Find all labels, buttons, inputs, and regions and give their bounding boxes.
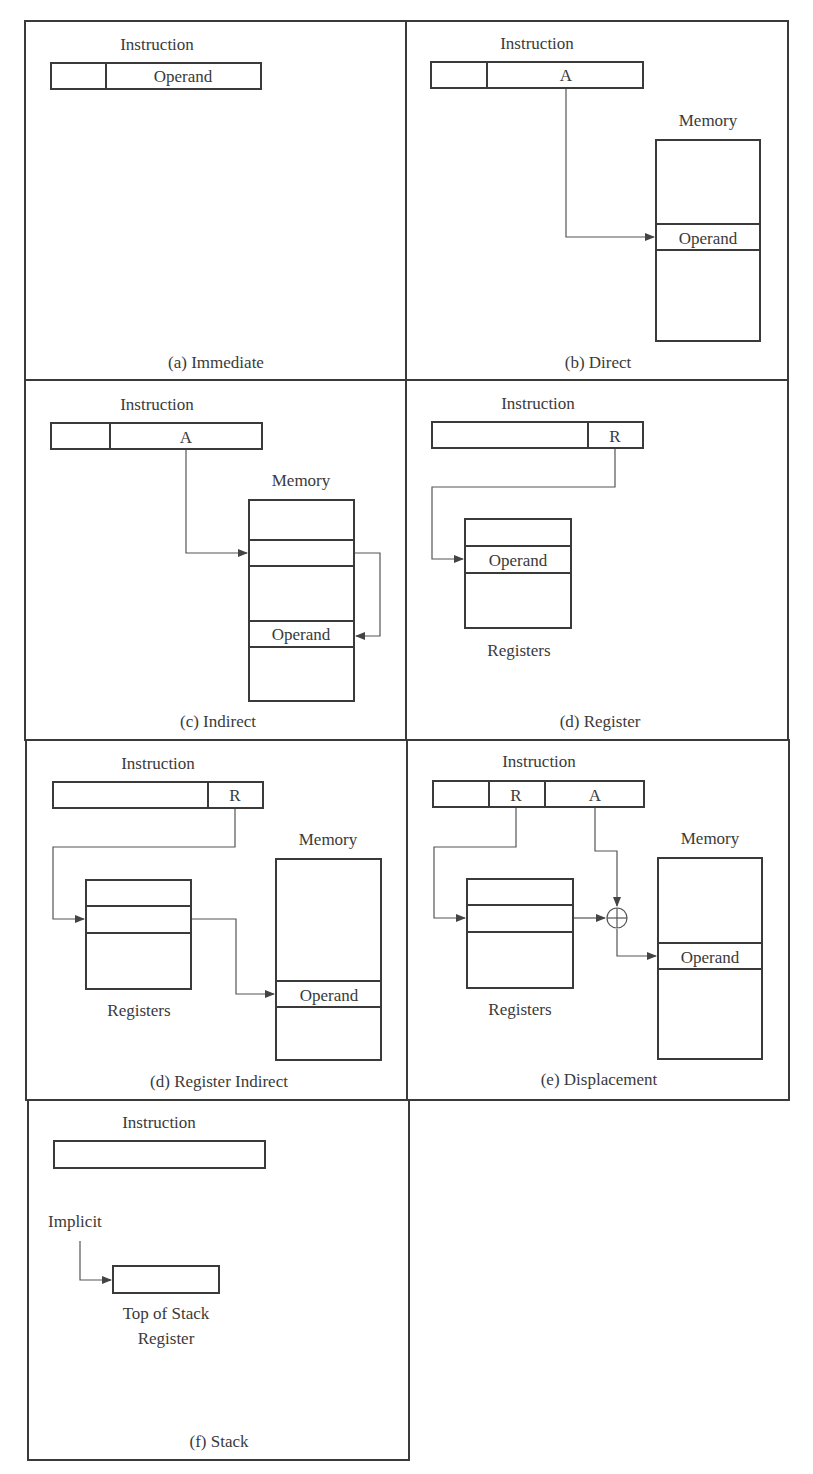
address-field: A: [589, 786, 602, 805]
memory-operand-cell: Operand: [681, 948, 740, 967]
memory-block: [276, 859, 381, 1060]
memory-operand-cell: Operand: [679, 229, 738, 248]
operand-field: Operand: [154, 67, 213, 86]
panel-displacement: Instruction R A Registers Memory Operand…: [433, 752, 762, 1089]
memory-label: Memory: [299, 830, 358, 849]
memory-label: Memory: [681, 829, 740, 848]
memory-operand-cell: Operand: [272, 625, 331, 644]
memory-block: [249, 500, 354, 701]
instruction-box: [431, 62, 643, 88]
addressing-modes-diagram: Instruction Operand (a) Immediate Instru…: [0, 0, 813, 1474]
arrow-icon: [80, 1241, 111, 1280]
panel-caption: (b) Direct: [565, 353, 632, 372]
instruction-label: Instruction: [502, 752, 576, 771]
panel-caption: (e) Displacement: [541, 1070, 658, 1089]
panel-caption: (d) Register: [560, 712, 641, 731]
instruction-label: Instruction: [501, 394, 575, 413]
address-field: A: [560, 66, 573, 85]
registers-block: [86, 880, 191, 989]
registers-label: Registers: [487, 641, 550, 660]
address-field: A: [180, 428, 193, 447]
panel-stack: Instruction Implicit Top of Stack Regist…: [48, 1113, 265, 1451]
instruction-box: [51, 423, 262, 449]
register-field: R: [229, 786, 241, 805]
instruction-label: Instruction: [120, 35, 194, 54]
arrow-icon: [566, 89, 654, 237]
panel-direct: Instruction A Memory Operand (b) Direct: [431, 34, 760, 372]
arrow-icon: [617, 929, 656, 956]
register-field: R: [609, 427, 621, 446]
instruction-box: [54, 1141, 265, 1168]
top-of-stack-label: Top of Stack: [123, 1304, 210, 1323]
panel-caption: (f) Stack: [189, 1432, 249, 1451]
panel-register: Instruction R Operand Registers (d) Regi…: [432, 394, 643, 731]
registers-label: Registers: [488, 1000, 551, 1019]
panel-caption: (a) Immediate: [168, 353, 264, 372]
instruction-label: Instruction: [500, 34, 574, 53]
register-label: Register: [138, 1329, 195, 1348]
arrow-icon: [186, 450, 247, 553]
register-operand-cell: Operand: [489, 551, 548, 570]
instruction-label: Instruction: [121, 754, 195, 773]
instruction-label: Instruction: [122, 1113, 196, 1132]
top-of-stack-register: [113, 1266, 219, 1293]
register-field: R: [510, 786, 522, 805]
panel-immediate: Instruction Operand (a) Immediate: [51, 35, 264, 372]
instruction-box: [433, 781, 644, 807]
implicit-label: Implicit: [48, 1212, 102, 1231]
arrow-icon: [595, 808, 617, 906]
arrow-icon: [355, 553, 380, 636]
memory-label: Memory: [272, 471, 331, 490]
instruction-label: Instruction: [120, 395, 194, 414]
panel-caption: (c) Indirect: [180, 712, 256, 731]
memory-label: Memory: [679, 111, 738, 130]
panel-register-indirect: Instruction R Registers Memory Operand (…: [53, 754, 381, 1091]
arrow-icon: [192, 919, 274, 994]
panel-indirect: Instruction A Memory Operand (c) Indirec…: [51, 395, 380, 731]
registers-block: [467, 879, 573, 988]
registers-label: Registers: [107, 1001, 170, 1020]
panel-caption: (d) Register Indirect: [150, 1072, 288, 1091]
memory-operand-cell: Operand: [300, 986, 359, 1005]
